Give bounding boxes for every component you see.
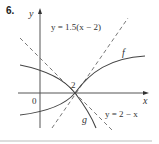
tangent-label-2: y = 2 − x: [105, 109, 138, 119]
x-axis-label: x: [142, 95, 148, 106]
curve-g-label: g: [82, 114, 87, 125]
point-label: 2: [71, 80, 76, 90]
curve-f: [20, 56, 145, 115]
origin-label: 0: [32, 96, 37, 106]
tangent-label-1: y = 1.5(x − 2): [51, 22, 101, 32]
y-axis-label: y: [28, 8, 34, 19]
diagram: y x 0 2 y = 1.5(x − 2) y = 2 − x f g: [0, 0, 159, 144]
y-axis-arrow-icon: [38, 8, 42, 14]
curve-f-label: f: [122, 47, 126, 58]
